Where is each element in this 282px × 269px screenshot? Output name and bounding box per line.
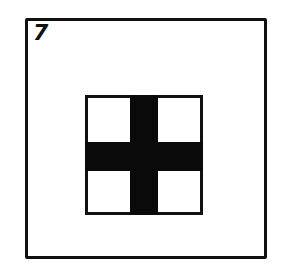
cross-horizontal-bar bbox=[85, 142, 203, 171]
figure-number-label: 7 bbox=[33, 22, 48, 44]
